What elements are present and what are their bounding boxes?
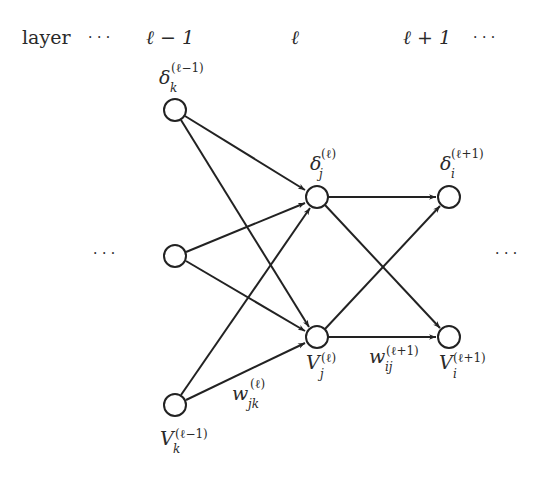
svg-text:(ℓ): (ℓ) bbox=[250, 377, 265, 391]
svg-text:(ℓ): (ℓ) bbox=[321, 351, 336, 365]
edges-curr-to-next bbox=[325, 197, 440, 337]
svg-text:δ: δ bbox=[159, 66, 170, 88]
node-k-top bbox=[164, 99, 186, 121]
svg-text:w: w bbox=[369, 345, 385, 367]
node-j-top bbox=[306, 186, 328, 208]
svg-text:k: k bbox=[170, 81, 177, 95]
edges-prev-to-curr bbox=[181, 116, 310, 400]
svg-text:i: i bbox=[453, 367, 457, 381]
label-w-ij: w ij (ℓ+1) bbox=[369, 344, 419, 374]
backprop-network-diagram: layer · · · ℓ − 1 ℓ ℓ + 1 · · · · · · · … bbox=[0, 0, 549, 481]
svg-text:i: i bbox=[451, 167, 455, 181]
right-ellipsis: · · · bbox=[495, 245, 517, 261]
svg-text:(ℓ+1): (ℓ+1) bbox=[386, 344, 419, 358]
node-i-bot bbox=[438, 326, 460, 348]
svg-text:(ℓ+1): (ℓ+1) bbox=[451, 147, 484, 161]
svg-text:ij: ij bbox=[385, 360, 393, 374]
node-k-mid bbox=[164, 245, 186, 267]
edge-k_bot-j_top bbox=[181, 208, 310, 395]
svg-text:(ℓ−1): (ℓ−1) bbox=[171, 61, 204, 75]
svg-text:(ℓ−1): (ℓ−1) bbox=[175, 427, 208, 441]
edge-k_mid-j_top bbox=[186, 203, 305, 252]
left-ellipsis: · · · bbox=[93, 245, 115, 261]
svg-text:w: w bbox=[232, 382, 248, 404]
label-w-jk: w jk (ℓ) bbox=[232, 377, 265, 411]
edge-k_mid-j_bot bbox=[186, 261, 305, 331]
layer-label: layer bbox=[22, 26, 71, 48]
header-layer-prev: ℓ − 1 bbox=[146, 26, 194, 48]
label-delta-j: δ j (ℓ) bbox=[310, 147, 336, 181]
label-V-i: V i (ℓ+1) bbox=[439, 351, 486, 381]
diagram-svg: layer · · · ℓ − 1 ℓ ℓ + 1 · · · · · · · … bbox=[0, 0, 549, 481]
label-V-k: V k (ℓ−1) bbox=[160, 427, 208, 456]
label-delta-k: δ k (ℓ−1) bbox=[159, 61, 204, 95]
svg-text:(ℓ+1): (ℓ+1) bbox=[453, 351, 486, 365]
svg-text:(ℓ): (ℓ) bbox=[321, 147, 336, 161]
svg-text:δ: δ bbox=[440, 152, 451, 174]
svg-text:k: k bbox=[173, 442, 180, 456]
svg-text:jk: jk bbox=[245, 397, 259, 411]
header-left-dots: · · · bbox=[88, 29, 110, 45]
node-k-bot bbox=[164, 394, 186, 416]
header-right-dots: · · · bbox=[473, 29, 495, 45]
edge-k_top-j_top bbox=[185, 116, 305, 190]
header-layer-curr: ℓ bbox=[291, 26, 299, 48]
label-delta-i: δ i (ℓ+1) bbox=[440, 147, 484, 181]
node-i-top bbox=[438, 186, 460, 208]
node-j-bot bbox=[306, 326, 328, 348]
label-V-j: V j (ℓ) bbox=[306, 351, 336, 381]
header-layer-next: ℓ + 1 bbox=[403, 26, 451, 48]
